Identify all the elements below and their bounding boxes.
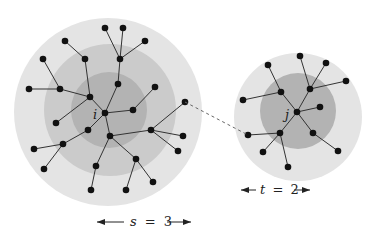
node	[343, 78, 350, 85]
node	[120, 25, 127, 32]
node	[62, 38, 69, 45]
right-cluster: j	[234, 53, 362, 181]
left-cluster: i	[14, 18, 202, 206]
node	[60, 141, 67, 148]
node	[88, 187, 95, 194]
node	[123, 187, 130, 194]
node	[31, 146, 38, 153]
scale-t-text: t = 2	[260, 182, 299, 197]
node	[335, 148, 342, 155]
node	[152, 84, 159, 91]
node	[107, 133, 114, 140]
node	[277, 130, 284, 137]
node	[180, 133, 187, 140]
node	[130, 107, 137, 114]
node	[93, 163, 100, 170]
node	[285, 164, 292, 171]
node-i	[102, 110, 109, 117]
node	[307, 86, 314, 93]
node-label-i: i	[93, 107, 97, 122]
node-j	[294, 109, 301, 116]
node	[310, 130, 317, 137]
node	[150, 179, 157, 186]
node	[278, 89, 285, 96]
node	[148, 127, 155, 134]
node	[317, 104, 324, 111]
node	[115, 81, 122, 88]
node	[26, 86, 33, 93]
node	[82, 56, 89, 63]
scale-s-text: s = 3	[130, 214, 172, 229]
node	[240, 97, 247, 104]
node	[41, 166, 48, 173]
node	[175, 148, 182, 155]
node	[117, 56, 124, 63]
node	[260, 149, 267, 156]
node	[142, 38, 149, 45]
node	[133, 156, 140, 163]
node	[85, 127, 92, 134]
node	[297, 53, 304, 60]
scale-label-s: s = 3	[97, 214, 191, 229]
node	[53, 120, 60, 127]
node	[57, 86, 64, 93]
node	[265, 62, 272, 69]
node	[40, 56, 47, 63]
node	[323, 60, 330, 67]
scale-label-t: t = 2	[241, 182, 310, 197]
node	[102, 25, 109, 32]
node	[87, 94, 94, 101]
network-diagram: i	[0, 0, 380, 240]
